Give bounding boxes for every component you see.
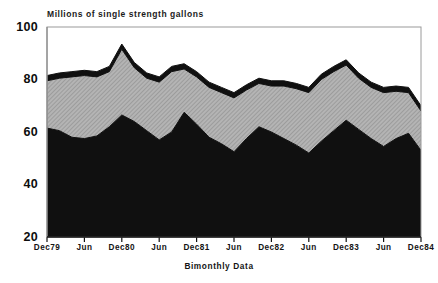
x-tick-label-0: Dec79	[34, 243, 60, 252]
y-tick-label-100: 100	[4, 20, 38, 34]
y-tick-label-80: 80	[4, 72, 38, 86]
x-tick-label-7: Jun	[301, 243, 317, 252]
x-tick-label-9: Jun	[376, 243, 392, 252]
x-tick-label-10: Dec84	[408, 243, 434, 252]
x-tick-label-5: Jun	[226, 243, 242, 252]
x-tick-label-6: Dec82	[258, 243, 284, 252]
area-chart-plot	[0, 0, 438, 283]
x-axis-ticks	[47, 237, 421, 242]
y-tick-label-20: 20	[4, 230, 38, 244]
x-tick-label-4: Dec81	[183, 243, 209, 252]
x-tick-label-2: Dec80	[109, 243, 135, 252]
y-tick-label-60: 60	[4, 125, 38, 139]
x-tick-label-3: Jun	[151, 243, 167, 252]
x-tick-label-8: Dec83	[333, 243, 359, 252]
y-tick-label-40: 40	[4, 177, 38, 191]
x-axis-title: Bimonthly Data	[0, 261, 438, 271]
chart-figure: Millions of single strength gallons 100 …	[0, 0, 438, 283]
x-tick-label-1: Jun	[76, 243, 92, 252]
